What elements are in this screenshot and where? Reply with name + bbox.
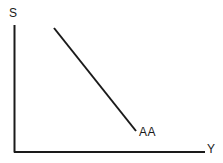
plot-area xyxy=(0,0,223,163)
x-axis-label: Y xyxy=(207,143,215,155)
aa-curve-line xyxy=(54,28,136,131)
graph-figure: S Y AA xyxy=(0,0,223,163)
y-axis-label: S xyxy=(9,7,17,19)
aa-curve-label: AA xyxy=(139,126,156,138)
